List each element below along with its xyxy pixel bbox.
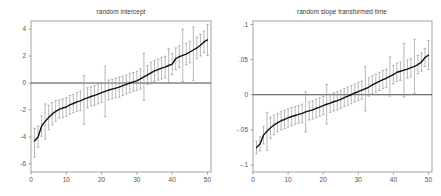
x-tick-label: 0 xyxy=(251,176,255,183)
x-tick-label: 50 xyxy=(204,176,212,183)
x-tick-label: 20 xyxy=(320,176,328,183)
y-tick-label: -.1 xyxy=(240,161,248,168)
x-tick-label: 10 xyxy=(284,176,292,183)
x-tick-label: 40 xyxy=(169,176,177,183)
y-tick-label: -6 xyxy=(20,160,26,167)
confidence-interval-bars xyxy=(255,39,430,153)
y-tick-label: -.05 xyxy=(237,126,249,133)
random-slope-plot: random slope transformed time .1.050-.05… xyxy=(220,0,441,196)
panel-random-slope: random slope transformed time .1.050-.05… xyxy=(220,0,440,196)
y-tick-label: 2 xyxy=(22,52,26,59)
x-tick-label: 10 xyxy=(63,176,71,183)
plot-frame xyxy=(31,21,211,172)
y-tick-label: -2 xyxy=(20,106,26,113)
random-intercept-plot: random intercept 420-2-4-601020304050 xyxy=(0,0,220,196)
x-tick-label: 20 xyxy=(98,176,106,183)
panel-random-intercept: random intercept 420-2-4-601020304050 xyxy=(0,0,220,196)
x-tick-label: 30 xyxy=(133,176,141,183)
x-tick-label: 30 xyxy=(355,176,363,183)
x-tick-label: 50 xyxy=(425,176,433,183)
x-tick-label: 0 xyxy=(29,176,33,183)
y-tick-label: 0 xyxy=(244,91,248,98)
estimate-line xyxy=(257,55,429,147)
y-tick-label: .1 xyxy=(243,21,249,28)
y-tick-label: 0 xyxy=(22,79,26,86)
y-tick-label: -4 xyxy=(20,133,26,140)
panel-title-left: random intercept xyxy=(97,8,146,16)
x-tick-label: 40 xyxy=(390,176,398,183)
confidence-interval-bars xyxy=(33,24,209,157)
figure-container: random intercept 420-2-4-601020304050 ra… xyxy=(0,0,441,196)
y-tick-label: .05 xyxy=(239,56,248,63)
right-plot-area: .1.050-.05-.101020304050 xyxy=(237,21,433,183)
panel-title-right: random slope transformed time xyxy=(297,8,387,16)
estimate-line xyxy=(35,40,208,141)
y-tick-label: 4 xyxy=(22,25,26,32)
left-plot-area: 420-2-4-601020304050 xyxy=(20,21,211,183)
